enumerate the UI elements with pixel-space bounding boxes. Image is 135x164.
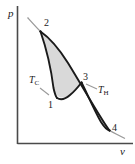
state-point-4-marker (108, 129, 110, 131)
cold-isotherm-label: TC (29, 75, 39, 85)
v-axis-label: v (120, 146, 125, 157)
pv-diagram-figure: p v 2 1 3 4 TC TH (0, 0, 135, 164)
hot-isotherm-subscript: H (104, 89, 109, 97)
state-label-1: 1 (48, 100, 53, 110)
hot-isotherm-symbol: T (98, 84, 104, 95)
cold-isotherm-leader (40, 88, 49, 95)
state-label-3: 3 (83, 72, 88, 82)
cold-isotherm-symbol: T (29, 74, 35, 85)
state-label-4: 4 (112, 123, 117, 133)
p-axis-label: p (8, 8, 14, 19)
state-point-2-marker (39, 30, 41, 32)
hot-isotherm-leader (86, 84, 97, 89)
cold-isotherm-subscript: C (35, 79, 40, 87)
cold-isotherm-extension (28, 18, 41, 32)
hot-isotherm-label: TH (98, 85, 109, 95)
pv-diagram-canvas (0, 0, 135, 164)
state-label-2: 2 (44, 18, 49, 28)
